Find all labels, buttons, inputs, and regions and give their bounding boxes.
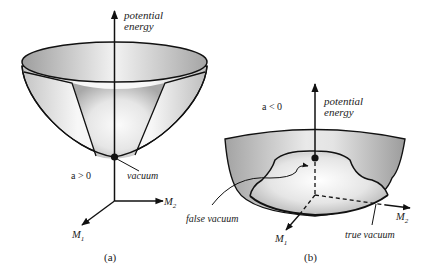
m1-axis [286, 214, 300, 230]
true-vacuum-leader [372, 204, 376, 225]
m1-label: M1 [71, 229, 84, 243]
false-vacuum-label: false vacuum [186, 213, 239, 224]
energy-label-line2: energy [124, 20, 154, 32]
m2-subscript: 2 [173, 202, 177, 210]
caption-b: (b) [304, 251, 317, 264]
condition-label: a > 0 [71, 170, 91, 181]
panel-b: a < 0 potential energy false vacuum true… [186, 84, 410, 264]
m1-subscript: 1 [284, 239, 288, 247]
energy-label-line2: energy [324, 106, 354, 118]
condition-label: a < 0 [262, 101, 282, 112]
m2-axis [386, 205, 410, 208]
m2-label: M2 [163, 196, 177, 210]
false-vacuum-point [311, 154, 318, 161]
m2-label: M2 [395, 211, 409, 225]
caption-a: (a) [104, 251, 117, 264]
potential-energy-diagram: potential energy a > 0 vacuum M2 M1 (a) [0, 0, 425, 277]
m2-subscript: 2 [405, 217, 409, 225]
m1-label: M1 [274, 233, 287, 247]
m1-subscript: 1 [81, 235, 85, 243]
true-vacuum-label: true vacuum [345, 229, 395, 240]
vacuum-label: vacuum [127, 170, 158, 181]
m1-axis [82, 201, 115, 225]
panel-a: potential energy a > 0 vacuum M2 M1 (a) [22, 9, 207, 264]
